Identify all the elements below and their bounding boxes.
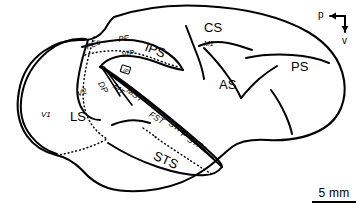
label-ls: LS bbox=[70, 110, 86, 123]
label-as: AS bbox=[219, 78, 236, 91]
brain-outline-svg bbox=[0, 0, 364, 217]
scale-bar-line bbox=[312, 201, 356, 203]
label-cs: CS bbox=[204, 21, 222, 34]
label-pe: PE bbox=[118, 35, 130, 44]
compass-ventral-label: v bbox=[342, 36, 347, 46]
compass-posterior-label: p bbox=[318, 10, 324, 20]
label-m1: M1 bbox=[204, 40, 214, 47]
label-v1: V1 bbox=[41, 111, 51, 119]
brain-outline bbox=[18, 5, 345, 191]
label-ps: PS bbox=[291, 60, 308, 73]
scale-bar-label: 5 mm bbox=[312, 186, 356, 200]
scale-bar: 5 mm bbox=[312, 186, 356, 203]
compass-arrows-icon bbox=[318, 6, 360, 52]
orientation-compass: p v bbox=[318, 6, 360, 52]
brain-diagram-figure: CS IPS AS PS LS STS PEc PE M1 V1 V2 VIP … bbox=[0, 0, 364, 217]
